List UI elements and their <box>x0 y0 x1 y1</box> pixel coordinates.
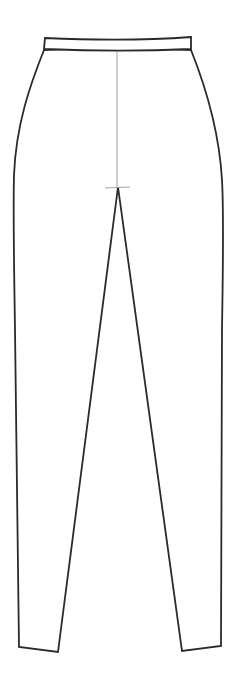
pants-body-outline <box>14 49 224 653</box>
pants-flat-sketch <box>0 0 236 684</box>
waistband <box>44 37 191 51</box>
pants-drawing <box>0 0 236 684</box>
